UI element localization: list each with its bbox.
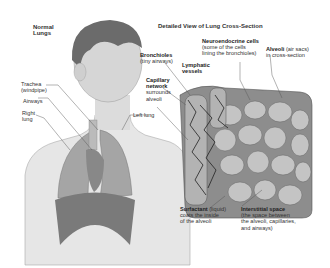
label-line: of the alveoli (180, 218, 226, 224)
label-rest: (liquid) (208, 206, 226, 212)
label-line: lung (22, 116, 35, 122)
label-line: and airways) (241, 225, 296, 231)
label-bold: Interstitial space (241, 206, 285, 212)
label-interstitial: Interstitial space (the space between th… (241, 206, 296, 231)
label-alveoli: Alveoli (air sacs) in cross-section (266, 46, 309, 58)
label-line: (tiny airways) (140, 58, 173, 64)
label-bronchioles: Bronchioles (tiny airways) (140, 52, 173, 64)
label-neuroendocrine: Neuroendocrine cells (some of the cells … (202, 38, 259, 57)
label-line: the alveoli, capillaries, (241, 218, 296, 224)
ear-shape (74, 63, 86, 81)
title-line: Lungs (33, 30, 54, 36)
label-bold: Lymphatic (182, 62, 210, 68)
label-right-lung: Right lung (22, 110, 35, 122)
label-line: in cross-section (266, 52, 309, 58)
label-bold: Surfactant (180, 206, 208, 212)
label-line: alveoli (146, 96, 171, 102)
label-rest: (air sacs) (284, 46, 309, 52)
label-line: surrounds (146, 89, 171, 95)
label-bold: Capillary (146, 77, 170, 83)
label-bold: vessels (182, 68, 202, 74)
label-line: (windpipe) (21, 87, 47, 93)
normal-lungs-title: Normal Lungs (33, 24, 54, 36)
label-airways: Airways (23, 98, 43, 104)
label-lymphatic: Lymphatic vessels (182, 62, 210, 74)
label-bold: Neuroendocrine cells (202, 38, 259, 44)
cross-section-title: Detailed View of Lung Cross-Section (158, 23, 263, 29)
label-line: lining the bronchioles) (202, 50, 259, 56)
label-left-lung: Left lung (133, 112, 154, 118)
label-surfactant: Surfactant (liquid) coats the inside of … (180, 206, 226, 225)
label-bold: network (146, 83, 167, 89)
label-bold: Alveoli (266, 46, 284, 52)
label-trachea: Trachea (windpipe) (21, 81, 47, 93)
label-capillary: Capillary network surrounds alveoli (146, 77, 171, 102)
label-bold: Bronchioles (140, 52, 172, 58)
